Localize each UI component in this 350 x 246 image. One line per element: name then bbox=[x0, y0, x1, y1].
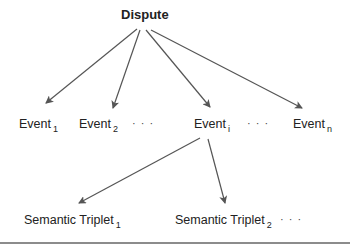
node-event-2: Event2 bbox=[79, 117, 118, 136]
node-event-i: Eventi bbox=[194, 117, 230, 136]
node-event-1-subscript: 1 bbox=[53, 124, 58, 134]
triplet-ellipsis: · · · bbox=[280, 212, 302, 226]
edge-dispute-event-i bbox=[146, 30, 210, 107]
node-semantic-triplet-2-subscript: 2 bbox=[267, 220, 272, 230]
node-dispute: Dispute bbox=[121, 8, 169, 22]
node-event-2-subscript: 2 bbox=[113, 124, 118, 134]
edge-dispute-event-2 bbox=[113, 30, 140, 108]
node-semantic-triplet-1-subscript: 1 bbox=[116, 220, 121, 230]
node-event-n-subscript: n bbox=[327, 124, 332, 134]
node-event-i-label: Event bbox=[194, 117, 226, 131]
edge-dispute-event-1 bbox=[46, 29, 137, 103]
bottom-divider bbox=[0, 242, 350, 244]
node-event-n: Eventn bbox=[293, 117, 332, 136]
node-dispute-label: Dispute bbox=[121, 7, 169, 22]
node-semantic-triplet-1-label: Semantic Triplet bbox=[24, 213, 114, 227]
node-event-1: Event1 bbox=[19, 117, 58, 136]
edge-event-i-triplet-1 bbox=[79, 138, 200, 203]
node-semantic-triplet-1: Semantic Triplet1 bbox=[24, 213, 121, 232]
event-ellipsis-2: · · · bbox=[247, 116, 269, 130]
node-event-2-label: Event bbox=[79, 117, 111, 131]
node-semantic-triplet-2: Semantic Triplet2 bbox=[175, 213, 272, 232]
event-ellipsis-1: · · · bbox=[132, 116, 154, 130]
edge-dispute-event-n bbox=[151, 30, 302, 108]
edge-event-i-triplet-2 bbox=[208, 139, 225, 203]
node-event-1-label: Event bbox=[19, 117, 51, 131]
node-semantic-triplet-2-label: Semantic Triplet bbox=[175, 213, 265, 227]
node-event-n-label: Event bbox=[293, 117, 325, 131]
node-event-i-subscript: i bbox=[228, 124, 230, 134]
